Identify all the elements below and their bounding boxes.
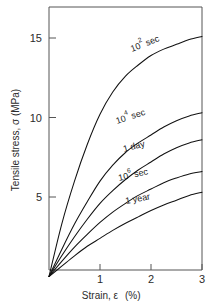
curve-label-1-day-text: 1 day xyxy=(122,138,146,153)
isochronous-stress-strain-chart: 15 10 5 1 2 3 Tensile stress, σ (MPa) St… xyxy=(0,0,218,306)
curve-label-1-day: 1 day xyxy=(122,138,146,153)
chart-svg: 15 10 5 1 2 3 Tensile stress, σ (MPa) St… xyxy=(0,0,218,306)
x-tick-label-1: 1 xyxy=(97,273,103,285)
plot-frame xyxy=(49,7,202,270)
x-tick-label-3: 3 xyxy=(199,273,205,285)
y-axis-title: Tensile stress, σ (MPa) xyxy=(10,89,21,191)
x-axis-ticks xyxy=(100,264,202,270)
curve-label-1-year: 1 year xyxy=(124,191,150,206)
y-axis-ticks xyxy=(49,38,56,197)
plot-border xyxy=(49,7,202,270)
curve-1-day xyxy=(49,140,202,277)
curve-label-1-year-text: 1 year xyxy=(124,191,150,206)
curve-group xyxy=(49,36,202,276)
x-tick-label-2: 2 xyxy=(148,273,154,285)
curve-10-6-sec xyxy=(49,172,202,277)
x-axis-title-main: Strain, ε xyxy=(82,290,119,301)
curve-10-4-sec xyxy=(49,113,202,277)
y-tick-label-15: 15 xyxy=(30,32,42,44)
y-tick-label-10: 10 xyxy=(30,112,42,124)
curve-label-10-6-sec-text: 106 sec xyxy=(116,162,149,183)
curve-label-10-2-sec: 102 sec xyxy=(127,29,161,54)
curve-label-10-4-sec-text: 104 sec xyxy=(113,103,147,126)
curve-label-10-4-sec: 104 sec xyxy=(113,103,147,126)
curve-label-10-2-sec-text: 102 sec xyxy=(127,29,161,54)
curve-label-10-6-sec: 106 sec xyxy=(116,162,149,183)
x-axis-title: Strain, ε (%) xyxy=(82,290,141,301)
y-tick-label-5: 5 xyxy=(36,191,42,203)
x-axis-title-unit: (%) xyxy=(125,290,141,301)
